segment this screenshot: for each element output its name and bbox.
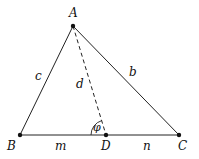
point-c <box>177 133 181 137</box>
point-b <box>18 133 22 137</box>
label-d: D <box>100 139 111 153</box>
label-a: A <box>68 6 78 20</box>
triangle-diagram: A B C D c b d m n φ <box>0 0 199 159</box>
label-cevian-d: d <box>76 77 84 91</box>
label-side-c: c <box>35 69 42 83</box>
label-side-b: b <box>129 65 137 79</box>
label-c: C <box>178 139 187 153</box>
point-d <box>104 133 108 137</box>
side-ab <box>20 26 73 135</box>
label-segment-n: n <box>143 139 151 153</box>
point-a <box>71 24 75 28</box>
label-segment-m: m <box>55 139 66 153</box>
label-b: B <box>6 139 16 153</box>
side-ac <box>73 26 179 135</box>
label-angle-phi: φ <box>93 121 101 134</box>
